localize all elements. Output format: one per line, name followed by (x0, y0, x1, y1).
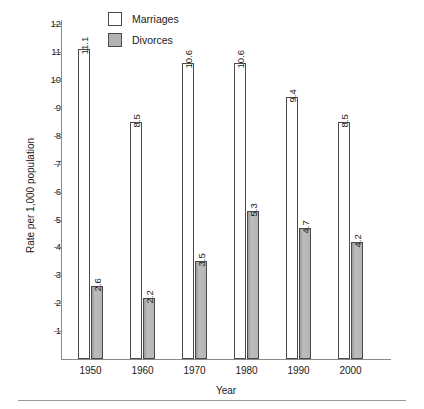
bar-value-label-marriages-1970: 10.6 (183, 50, 193, 69)
bar-divorces-1960 (143, 298, 155, 359)
bar-value-label-divorces-1960: 2.2 (144, 290, 154, 303)
bar-marriages-1960 (130, 122, 142, 359)
bar-value-label-marriages-1950: 11.1 (79, 37, 89, 55)
y-tick-mark (54, 24, 61, 25)
legend-label-marriages: Marriages (132, 13, 179, 25)
bar-divorces-1990 (299, 228, 311, 359)
bar-divorces-1980 (247, 211, 259, 359)
y-tick-mark (54, 52, 61, 53)
x-tick-label-1950: 1950 (61, 365, 121, 376)
chart-plot-area: 123456789101112 Rate per 1,000 populatio… (0, 0, 424, 409)
y-tick-mark (54, 136, 61, 137)
bar-value-label-divorces-2000: 4.2 (352, 234, 362, 247)
y-tick-mark (54, 192, 61, 193)
bar-value-label-marriages-1980: 10.6 (235, 50, 245, 69)
bar-value-label-marriages-2000: 8.5 (339, 114, 349, 127)
bar-divorces-1970 (195, 261, 207, 359)
bar-divorces-1950 (91, 286, 103, 359)
x-tick-label-1960: 1960 (113, 365, 173, 376)
white-square-swatch-icon (108, 12, 122, 26)
x-tick-label-1990: 1990 (269, 365, 329, 376)
x-axis-line (61, 359, 391, 360)
bar-marriages-1990 (286, 97, 298, 359)
x-tick-label-1970: 1970 (165, 365, 225, 376)
bar-value-label-divorces-1990: 4.7 (300, 220, 310, 233)
bar-marriages-1970 (182, 63, 194, 359)
legend-label-divorces: Divorces (132, 34, 173, 46)
x-tick-label-1980: 1980 (217, 365, 277, 376)
gray-square-swatch-icon (108, 33, 122, 47)
bar-marriages-1950 (78, 49, 90, 359)
y-tick-mark (54, 108, 61, 109)
bar-value-label-marriages-1960: 8.5 (131, 114, 141, 127)
y-tick-mark (54, 247, 61, 248)
bar-value-label-divorces-1950: 2.6 (92, 279, 102, 292)
bar-value-label-marriages-1990: 9.4 (287, 89, 297, 102)
y-tick-mark (54, 331, 61, 332)
marriage-divorce-rate-figure: 123456789101112 Rate per 1,000 populatio… (0, 0, 424, 409)
y-tick-mark (54, 164, 61, 165)
bar-divorces-2000 (351, 242, 363, 359)
x-tick-label-2000: 2000 (321, 365, 381, 376)
x-axis-title: Year (61, 385, 391, 396)
footer-divider (18, 400, 406, 401)
bar-value-label-divorces-1970: 3.5 (196, 254, 206, 267)
y-tick-mark (54, 220, 61, 221)
y-tick-mark (54, 275, 61, 276)
y-tick-mark (54, 80, 61, 81)
bar-marriages-2000 (338, 122, 350, 359)
y-tick-mark (54, 303, 61, 304)
bar-marriages-1980 (234, 63, 246, 359)
y-axis-title: Rate per 1,000 population (25, 121, 36, 271)
bar-value-label-divorces-1980: 5.3 (248, 203, 258, 216)
y-axis-line (61, 20, 62, 360)
